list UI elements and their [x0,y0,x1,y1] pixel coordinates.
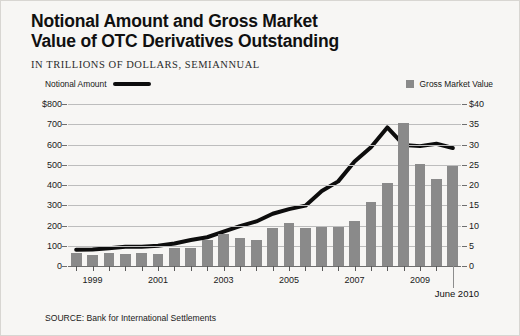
y-axis-right-tick-label: 25 [469,160,479,170]
bar [316,227,327,266]
bar [398,123,409,266]
y-axis-right-tick [462,104,467,105]
x-axis-tick [93,266,94,271]
x-axis-tick [142,266,143,271]
bar [202,240,213,266]
plot-area: 001005200103001540020500256003070035$800… [68,104,461,266]
bar [104,253,115,266]
y-axis-right-tick-label: 15 [469,200,479,210]
x-axis-tick-label: 2001 [148,275,168,285]
y-axis-right-tick [462,226,467,227]
x-axis-tick-label: 2007 [345,275,365,285]
x-axis-tick [338,266,339,271]
x-axis-tick [191,266,192,271]
bar [185,248,196,266]
gridline [68,104,461,105]
y-axis-right-tick-label: 30 [469,140,479,150]
bar [333,227,344,266]
x-axis-tick-label: 2003 [214,275,234,285]
y-axis-left-tick [62,165,67,166]
y-axis-left-tick [62,145,67,146]
bar [235,238,246,266]
bar [284,223,295,266]
x-axis-tick [207,266,208,271]
y-axis-left-tick-label: 300 [47,200,62,210]
x-axis-tick [240,266,241,271]
y-axis-left-tick [62,246,67,247]
bar [153,254,164,266]
y-axis-left-tick-label: 700 [47,119,62,129]
chart-figure: Notional Amount and Gross Market Value o… [0,0,520,336]
x-axis-tick-label: 2009 [410,275,430,285]
x-axis-tick [387,266,388,271]
x-axis-tick [125,266,126,271]
y-axis-right-tick-label: 10 [469,221,479,231]
bar [349,221,360,266]
notional-amount-line-path [76,127,453,249]
end-annotation-leader [453,266,454,288]
x-axis-tick [273,266,274,271]
x-axis-tick [76,266,77,271]
y-axis-left-tick [62,104,67,105]
x-axis-tick [420,266,421,271]
y-axis-left-tick [62,226,67,227]
x-axis-tick-label: 2005 [279,275,299,285]
y-axis-right-tick [462,145,467,146]
legend-bar-swatch-icon [406,80,414,88]
x-axis-tick [355,266,356,271]
bar [431,179,442,266]
x-axis-tick [322,266,323,271]
bar [251,240,262,266]
y-axis-left-tick [62,205,67,206]
bar [415,164,426,266]
y-axis-left-tick [62,266,67,267]
bar [218,234,229,266]
source-note: SOURCE: Bank for International Settlemen… [45,313,216,323]
x-axis-tick [224,266,225,271]
bar [136,253,147,266]
y-axis-right-tick [462,165,467,166]
y-axis-right-tick [462,124,467,125]
x-axis-tick [158,266,159,271]
y-axis-left-tick-label: 400 [47,180,62,190]
bar [300,228,311,266]
end-annotation-label: June 2010 [435,288,479,299]
bar [169,248,180,266]
y-axis-left-tick-label: 100 [47,241,62,251]
bar [382,183,393,266]
page-title: Notional Amount and Gross Market Value o… [31,11,431,52]
x-axis-tick [305,266,306,271]
x-axis-tick [109,266,110,271]
legend-label-notional-amount: Notional Amount [45,79,106,89]
x-axis-tick [436,266,437,271]
y-axis-left-tick-label: $800 [42,99,62,109]
y-axis-right-tick-label: 20 [469,180,479,190]
x-axis-tick [404,266,405,271]
y-axis-left-tick [62,185,67,186]
chart-subtitle: IN TRILLIONS OF DOLLARS, SEMIANNUAL [31,59,431,70]
bar [447,166,458,266]
bar [87,255,98,266]
gridline [68,266,461,267]
x-axis-tick-label: 1999 [83,275,103,285]
legend-label-gross-market-value: Gross Market Value [420,79,493,89]
y-axis-right-tick [462,205,467,206]
y-axis-left-tick-label: 500 [47,160,62,170]
title-block: Notional Amount and Gross Market Value o… [31,11,431,70]
legend-gross-market-value: Gross Market Value [406,79,493,89]
y-axis-right-tick [462,185,467,186]
bar [71,253,82,266]
legend-line-swatch-icon [113,82,151,87]
y-axis-right-tick-label: 0 [469,261,474,271]
bar [120,254,131,266]
y-axis-left-tick-label: 200 [47,221,62,231]
y-axis-left-tick-label: 600 [47,140,62,150]
x-axis-tick [371,266,372,271]
x-axis-tick [174,266,175,271]
y-axis-right-tick-label: $40 [469,99,484,109]
y-axis-left-tick [62,124,67,125]
legend-notional-amount: Notional Amount [45,79,151,89]
x-axis-tick [256,266,257,271]
bar [366,202,377,266]
x-axis-tick [289,266,290,271]
